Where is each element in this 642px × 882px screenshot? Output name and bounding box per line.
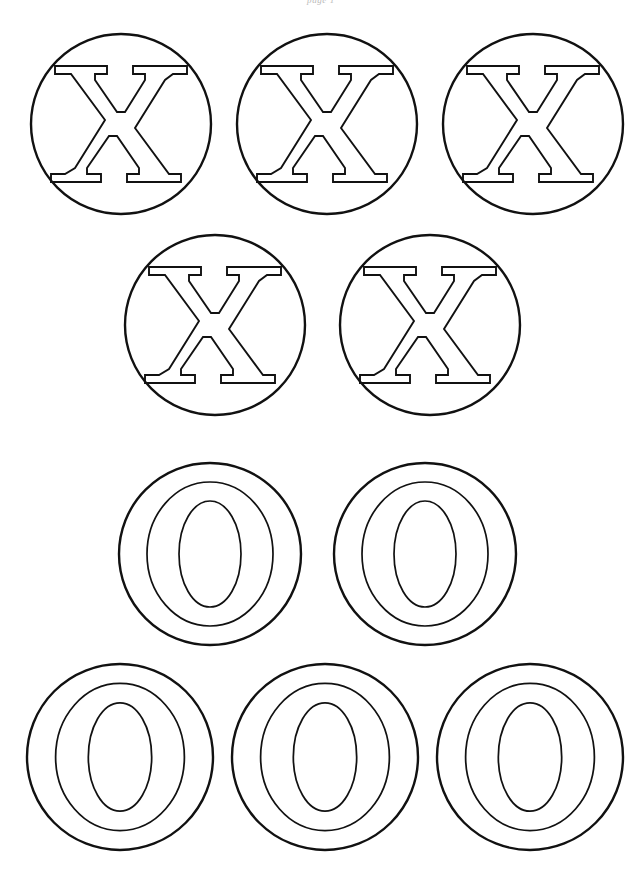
x-glyph xyxy=(51,66,187,182)
x-glyph xyxy=(145,267,281,383)
o-token[interactable] xyxy=(21,658,219,856)
x-glyph-outline xyxy=(257,66,393,182)
x-glyph-outline xyxy=(51,66,187,182)
o-glyph-outer-oval xyxy=(362,482,488,626)
o-token[interactable] xyxy=(113,457,307,651)
o-glyph-inner-oval xyxy=(498,703,561,811)
token-ring-circle xyxy=(125,235,305,415)
worksheet-page: page 1 xyxy=(0,0,642,882)
o-glyph xyxy=(261,683,390,830)
token-ring-circle xyxy=(340,235,520,415)
o-glyph xyxy=(466,683,595,830)
x-token[interactable] xyxy=(119,229,311,421)
o-glyph-outline xyxy=(147,482,273,626)
o-glyph xyxy=(56,683,185,830)
o-glyph-outer-oval xyxy=(147,482,273,626)
x-glyph-outline xyxy=(463,66,599,182)
x-token[interactable] xyxy=(25,28,217,220)
o-glyph-inner-oval xyxy=(179,501,241,607)
o-glyph-outline xyxy=(466,683,595,830)
o-glyph-outer-oval xyxy=(466,683,595,830)
o-glyph-outline xyxy=(362,482,488,626)
o-glyph xyxy=(362,482,488,626)
x-token[interactable] xyxy=(334,229,526,421)
o-token[interactable] xyxy=(226,658,424,856)
o-glyph-outer-oval xyxy=(261,683,390,830)
o-glyph-inner-oval xyxy=(394,501,456,607)
o-glyph-outline xyxy=(56,683,185,830)
x-glyph xyxy=(257,66,393,182)
page-header-text: page 1 xyxy=(0,0,642,5)
o-glyph xyxy=(147,482,273,626)
o-token[interactable] xyxy=(328,457,522,651)
token-ring-circle xyxy=(443,34,623,214)
token-ring-circle xyxy=(31,34,211,214)
x-token[interactable] xyxy=(437,28,629,220)
x-glyph xyxy=(463,66,599,182)
o-glyph-outline xyxy=(261,683,390,830)
x-glyph-outline xyxy=(360,267,496,383)
o-token[interactable] xyxy=(431,658,629,856)
token-ring-circle xyxy=(237,34,417,214)
o-glyph-outer-oval xyxy=(56,683,185,830)
x-glyph-outline xyxy=(145,267,281,383)
x-token[interactable] xyxy=(231,28,423,220)
o-glyph-inner-oval xyxy=(293,703,356,811)
x-glyph xyxy=(360,267,496,383)
o-glyph-inner-oval xyxy=(88,703,151,811)
